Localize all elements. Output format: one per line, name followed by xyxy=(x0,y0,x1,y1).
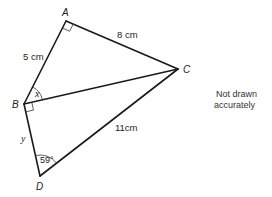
angle-label-y: y xyxy=(20,133,26,144)
note-line-2: accurately xyxy=(214,100,256,110)
vertex-label-c: C xyxy=(183,64,191,75)
geometry-diagram: A B C D 5 cm 8 cm 11cm x y 59° Not drawn… xyxy=(0,0,272,197)
vertex-label-b: B xyxy=(12,99,19,110)
side-label-ac: 8 cm xyxy=(117,29,138,40)
vertex-label-a: A xyxy=(61,7,69,18)
angle-label-59: 59° xyxy=(40,155,54,165)
edge-bd xyxy=(24,104,40,176)
vertex-label-d: D xyxy=(36,181,43,192)
edge-ab xyxy=(24,21,66,104)
angle-label-x: x xyxy=(34,88,40,99)
side-label-ab: 5 cm xyxy=(23,51,44,62)
note-line-1: Not drawn xyxy=(216,89,257,99)
side-label-cd: 11cm xyxy=(115,122,138,133)
